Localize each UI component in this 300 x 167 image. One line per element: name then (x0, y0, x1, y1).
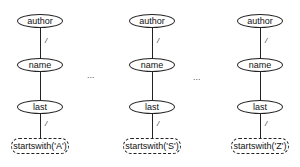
separator-ellipsis-2: ... (193, 72, 201, 82)
edge-label-last-predicate: / (157, 119, 159, 128)
node-predicate: startswith('A') (11, 138, 69, 154)
tree-3: / / author name last startswith('Z') (220, 0, 300, 167)
edge-author-name (152, 28, 153, 58)
node-name: name (17, 58, 63, 72)
edge-label-author-name: / (45, 36, 47, 45)
edge-last-predicate (260, 113, 261, 139)
edge-label-last-predicate: / (265, 119, 267, 128)
edge-label-last-predicate: / (45, 119, 47, 128)
separator-ellipsis-1: ... (87, 70, 95, 80)
edge-name-last (152, 72, 153, 102)
edge-last-predicate (40, 113, 41, 139)
node-name: name (129, 58, 175, 72)
edge-last-predicate (152, 113, 153, 139)
diagram-canvas: / / author name last startswith('A') ...… (0, 0, 300, 167)
node-last: last (129, 100, 175, 114)
node-author: author (237, 14, 283, 28)
edge-name-last (260, 72, 261, 102)
tree-1: / / author name last startswith('A') (0, 0, 80, 167)
tree-2: / / author name last startswith('S') (112, 0, 192, 167)
node-author: author (17, 14, 63, 28)
node-predicate: startswith('Z') (231, 138, 289, 154)
edge-label-author-name: / (265, 36, 267, 45)
edge-author-name (260, 28, 261, 58)
node-predicate: startswith('S') (123, 138, 181, 154)
node-author: author (129, 14, 175, 28)
node-name: name (237, 58, 283, 72)
node-last: last (237, 100, 283, 114)
edge-author-name (40, 28, 41, 58)
edge-label-author-name: / (157, 36, 159, 45)
node-last: last (17, 100, 63, 114)
edge-name-last (40, 72, 41, 102)
